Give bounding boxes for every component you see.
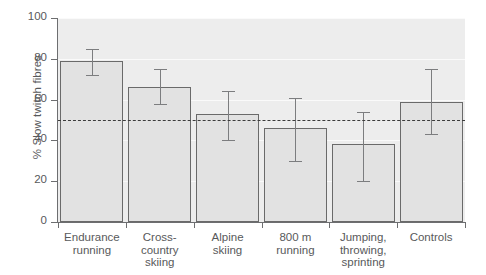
- error-bar-cap: [222, 91, 235, 92]
- y-tick-label: 40: [0, 132, 47, 144]
- category-label: Jumping,throwing,sprinting: [329, 231, 397, 269]
- error-bar-line: [363, 112, 364, 181]
- slow-twitch-fibres-bar-chart: % Slow twitch fibres 020406080100 Endura…: [0, 0, 486, 275]
- gridline: [58, 59, 465, 60]
- category-label-line: running: [262, 244, 330, 257]
- category-label-line: Controls: [397, 231, 465, 244]
- error-bar-cap: [357, 181, 370, 182]
- error-bar-cap: [425, 134, 438, 135]
- y-tick-mark: [51, 222, 57, 223]
- category-label-line: Jumping,: [329, 231, 397, 244]
- category-label: 800 mrunning: [262, 231, 330, 256]
- category-label-line: skiing: [126, 256, 194, 269]
- x-tick-mark: [262, 223, 263, 228]
- category-label-line: Endurance: [58, 231, 126, 244]
- error-bar-line: [160, 69, 161, 104]
- category-label-line: Cross-: [126, 231, 194, 244]
- y-tick-mark: [51, 140, 57, 141]
- category-label-line: running: [58, 244, 126, 257]
- y-tick-label: 20: [0, 173, 47, 185]
- category-label-line: Alpine: [194, 231, 262, 244]
- error-bar-line: [431, 69, 432, 134]
- x-tick-mark: [465, 223, 466, 228]
- y-tick-mark: [51, 100, 57, 101]
- y-tick-label: 80: [0, 51, 47, 63]
- gridline: [58, 18, 465, 19]
- error-bar-line: [295, 98, 296, 161]
- bar: [128, 87, 191, 222]
- error-bar-cap: [357, 112, 370, 113]
- category-label-line: country: [126, 244, 194, 257]
- category-label: Controls: [397, 231, 465, 244]
- error-bar-cap: [154, 69, 167, 70]
- category-label: Alpineskiing: [194, 231, 262, 256]
- error-bar-cap: [222, 140, 235, 141]
- x-tick-mark: [126, 223, 127, 228]
- x-tick-mark: [397, 223, 398, 228]
- error-bar-cap: [425, 69, 438, 70]
- category-label-line: 800 m: [262, 231, 330, 244]
- y-tick-mark: [51, 18, 57, 19]
- y-tick-mark: [51, 181, 57, 182]
- error-bar-line: [228, 91, 229, 140]
- y-tick-label: 0: [0, 214, 47, 226]
- y-tick-label: 60: [0, 92, 47, 104]
- error-bar-cap: [86, 49, 99, 50]
- error-bar-cap: [154, 104, 167, 105]
- category-label-line: skiing: [194, 244, 262, 257]
- error-bar-cap: [289, 161, 302, 162]
- bar: [60, 61, 123, 222]
- category-label: Endurancerunning: [58, 231, 126, 256]
- category-label: Cross-countryskiing: [126, 231, 194, 269]
- error-bar-cap: [86, 75, 99, 76]
- category-label-line: sprinting: [329, 256, 397, 269]
- error-bar-line: [92, 49, 93, 76]
- error-bar-cap: [289, 98, 302, 99]
- x-tick-mark: [58, 223, 59, 228]
- reference-line-50: [58, 120, 465, 121]
- y-tick-label: 100: [0, 10, 47, 22]
- x-tick-mark: [194, 223, 195, 228]
- category-label-line: throwing,: [329, 244, 397, 257]
- x-tick-mark: [329, 223, 330, 228]
- y-tick-mark: [51, 59, 57, 60]
